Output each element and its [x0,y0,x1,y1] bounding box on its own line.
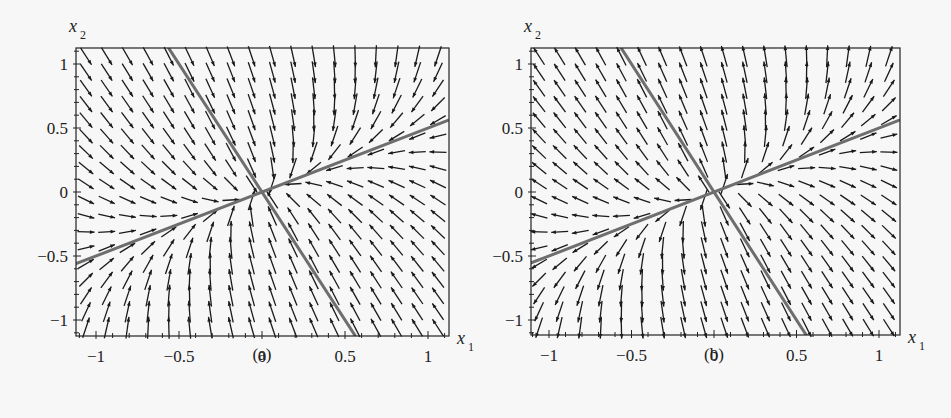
vector-arrow [224,177,237,190]
vector-arrow [141,179,156,190]
vector-arrow [161,197,177,203]
vector-arrow [863,319,874,336]
vector-arrow [616,79,626,97]
vector-arrow [779,194,794,205]
vector-arrow [822,303,832,321]
vector-arrow [862,96,874,112]
vector-arrow [411,272,423,288]
vector-arrow [145,270,152,290]
vector-arrow [841,210,855,222]
vector-arrow [533,80,545,96]
y-tick-label: −1 [505,311,523,330]
vector-arrow [553,258,567,270]
vector-arrow [101,80,112,96]
vector-arrow [615,145,627,160]
vector-arrow [389,195,404,205]
vector-arrow [120,162,134,174]
vector-arrow [289,286,297,306]
vector-arrow [881,133,898,138]
vector-arrow [616,96,626,113]
vector-arrow [532,146,546,159]
vector-arrow [122,80,133,97]
vector-arrow [532,273,545,286]
y-tick-label: 0 [60,183,69,202]
vector-arrow [881,180,897,188]
vector-arrow [98,230,115,234]
vector-arrow [414,46,420,67]
vector-arrow [839,150,856,154]
vector-arrow [741,254,749,273]
vector-arrow [99,196,115,203]
vector-arrow [163,239,174,256]
vector-arrow [861,195,876,205]
vector-arrow [432,80,443,97]
vector-arrow [309,286,318,305]
vector-arrow [161,179,176,190]
vector-arrow [225,160,236,177]
vector-arrow [798,181,814,187]
vector-arrow [594,241,608,254]
vector-arrow [184,144,196,160]
vector-arrow [886,46,893,66]
vector-arrow [554,113,566,128]
vector-arrow [595,128,607,143]
vector-arrow [782,318,791,337]
y-axis-label: x [68,16,77,36]
vector-arrow [843,319,853,337]
vector-arrow [572,213,589,217]
vector-arrow [79,273,92,286]
vector-arrow [803,110,810,130]
vector-arrow [860,180,876,187]
vector-arrow [658,79,667,98]
vector-arrow [722,157,726,179]
vector-arrow [411,225,424,238]
vector-arrow [349,240,361,256]
vector-arrow [822,287,832,304]
vector-arrow [638,238,645,258]
vector-arrow [679,46,687,66]
vector-arrow [681,221,685,243]
vector-arrow [350,128,361,145]
vector-arrow [574,256,587,271]
vector-arrow [533,96,545,112]
vector-arrow [289,254,297,273]
vector-arrow [100,145,113,158]
vector-arrow [841,113,854,128]
vector-arrow [121,256,134,271]
vector-arrow [412,319,423,336]
vector-arrow [862,256,874,271]
vector-arrow [143,47,153,65]
vector-arrow [572,230,589,234]
vector-arrow [431,241,444,255]
x-tick-label: −0.5 [164,347,195,366]
vector-arrow [80,80,92,96]
vector-arrow [78,196,94,204]
vector-arrow [656,160,668,175]
vector-arrow [721,174,728,194]
panel-a: −1−0.500.51−1−0.500.51x1x2 (a) [0,0,475,418]
vector-arrow [614,179,629,190]
vector-arrow [780,209,793,223]
vector-arrow [842,256,854,272]
vector-arrow [821,225,834,239]
vector-arrow [164,95,174,112]
y-tick-label: −1 [50,311,68,330]
vector-arrow [572,196,588,203]
vector-arrow [679,62,687,82]
vector-arrow [618,254,625,274]
vector-arrow [552,179,567,189]
vector-arrow [574,112,586,128]
vector-arrow [533,113,545,128]
vector-arrow [409,180,425,187]
vector-arrow [574,145,587,159]
vector-arrow [842,272,853,288]
vector-arrow [741,302,749,322]
vector-arrow [329,255,339,273]
vector-arrow [227,95,235,114]
vector-arrow [328,144,340,159]
vector-arrow [616,239,627,256]
vector-arrow [863,288,874,304]
vector-arrow [820,195,835,206]
vector-arrow [575,48,585,66]
vector-arrow [369,225,382,239]
